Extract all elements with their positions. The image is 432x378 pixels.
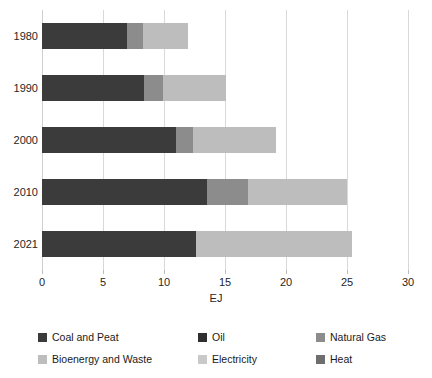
x-tick-mark-10 — [164, 270, 165, 274]
bar-group-2000 — [42, 127, 408, 153]
bar-track — [42, 23, 408, 49]
x-tick-label-25: 25 — [341, 276, 353, 288]
bar-track — [42, 75, 408, 101]
legend-item-label: Oil — [212, 331, 225, 343]
y-tick-label-1980: 1980 — [0, 30, 38, 42]
y-tick-label-2010: 2010 — [0, 186, 38, 198]
gridline-30 — [408, 10, 409, 270]
legend-swatch-icon — [38, 355, 47, 364]
plot-area — [42, 10, 408, 270]
bar-segment-coal-and-peat — [42, 75, 144, 101]
legend-item-label: Natural Gas — [330, 331, 386, 343]
y-tick-label-2021: 2021 — [0, 238, 38, 250]
x-tick-label-15: 15 — [219, 276, 231, 288]
legend-item-heat[interactable]: Heat — [316, 353, 418, 365]
bar-segment-coal-and-peat — [42, 127, 176, 153]
x-tick-label-20: 20 — [280, 276, 292, 288]
legend-swatch-icon — [316, 355, 325, 364]
y-tick-label-1990: 1990 — [0, 82, 38, 94]
bar-segment-natural-gas — [176, 127, 193, 153]
bar-segment-bioenergy-and-waste — [193, 127, 276, 153]
x-tick-label-10: 10 — [158, 276, 170, 288]
legend-item-natural-gas[interactable]: Natural Gas — [316, 331, 418, 343]
x-tick-label-0: 0 — [39, 276, 45, 288]
bar-segment-bioenergy-and-waste — [143, 23, 188, 49]
legend-item-coal-and-peat[interactable]: Coal and Peat — [38, 331, 198, 343]
legend-swatch-icon — [38, 333, 47, 342]
x-tick-mark-20 — [286, 270, 287, 274]
legend-item-label: Electricity — [212, 353, 257, 365]
bar-group-2010 — [42, 179, 408, 205]
bar-track — [42, 127, 408, 153]
x-tick-mark-0 — [42, 270, 43, 274]
legend-swatch-icon — [198, 333, 207, 342]
legend-item-label: Bioenergy and Waste — [52, 353, 152, 365]
x-tick-label-30: 30 — [402, 276, 414, 288]
legend-item-electricity[interactable]: Electricity — [198, 353, 316, 365]
bar-segment-bioenergy-and-waste — [248, 179, 347, 205]
x-axis-label: EJ — [0, 292, 432, 304]
chart-legend: Coal and PeatOilNatural GasBioenergy and… — [38, 326, 418, 370]
chart-figure: 19801990200020102021 051015202530 EJ Coa… — [0, 0, 432, 378]
x-tick-mark-5 — [103, 270, 104, 274]
legend-item-bioenergy-and-waste[interactable]: Bioenergy and Waste — [38, 353, 198, 365]
bar-track — [42, 231, 408, 257]
x-axis: 051015202530 — [42, 270, 408, 294]
x-tick-label-5: 5 — [100, 276, 106, 288]
legend-item-oil[interactable]: Oil — [198, 331, 316, 343]
bar-segment-bioenergy-and-waste — [163, 75, 226, 101]
x-tick-mark-15 — [225, 270, 226, 274]
legend-swatch-icon — [198, 355, 207, 364]
bar-group-1990 — [42, 75, 408, 101]
y-tick-label-2000: 2000 — [0, 134, 38, 146]
bar-segment-bioenergy-and-waste — [196, 231, 352, 257]
bar-track — [42, 179, 408, 205]
x-tick-mark-30 — [408, 270, 409, 274]
legend-swatch-icon — [316, 333, 325, 342]
bar-segment-coal-and-peat — [42, 23, 127, 49]
legend-item-label: Heat — [330, 353, 352, 365]
bar-group-1980 — [42, 23, 408, 49]
x-tick-mark-25 — [347, 270, 348, 274]
bar-segment-coal-and-peat — [42, 231, 196, 257]
bar-group-2021 — [42, 231, 408, 257]
y-axis: 19801990200020102021 — [0, 10, 38, 270]
bar-segment-coal-and-peat — [42, 179, 207, 205]
bar-segment-natural-gas — [144, 75, 162, 101]
legend-item-label: Coal and Peat — [52, 331, 119, 343]
bar-segment-natural-gas — [127, 23, 143, 49]
bar-segment-natural-gas — [207, 179, 248, 205]
